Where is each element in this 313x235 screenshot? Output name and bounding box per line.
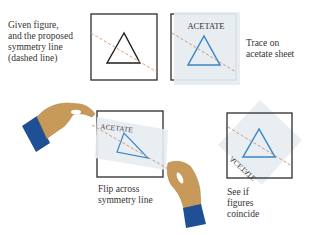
acetate-label: ACETATE	[187, 21, 224, 31]
hand-right	[167, 161, 206, 228]
hand	[167, 161, 201, 210]
caption-flip: Flip across symmetry line	[98, 184, 153, 206]
caption-trace: Trace on acetate sheet	[246, 38, 294, 60]
panel-given	[91, 14, 157, 80]
caption-given: Given figure, and the proposed symmetry …	[8, 20, 73, 64]
hand	[37, 103, 95, 139]
panel-check: ACETATE	[218, 100, 302, 185]
sleeve	[183, 204, 206, 228]
panel-trace: ACETATE	[171, 12, 240, 85]
hand-left	[22, 103, 95, 152]
frame	[91, 14, 157, 80]
panel-flip: ACETATE	[92, 111, 170, 177]
finger-gap	[71, 110, 81, 114]
caption-check: See if figures coincide	[227, 187, 259, 220]
